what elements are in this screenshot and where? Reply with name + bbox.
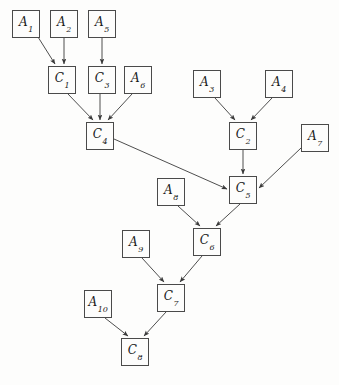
edge-c5-to-c6 xyxy=(216,204,240,226)
node-label-subscript: 3 xyxy=(209,85,214,94)
edge-a8-to-c6 xyxy=(178,206,200,226)
node-c3[interactable]: C3 xyxy=(88,66,116,94)
edge-a1-to-c1 xyxy=(38,37,55,64)
node-label-subscript: 1 xyxy=(65,81,70,90)
node-label: C1 xyxy=(55,72,69,87)
node-c8[interactable]: C8 xyxy=(121,338,149,366)
node-label: A8 xyxy=(164,184,178,199)
node-label-base: C xyxy=(236,181,245,195)
node-label: A1 xyxy=(19,16,33,31)
node-label-base: C xyxy=(55,71,64,85)
node-a3[interactable]: A3 xyxy=(193,70,221,98)
node-label: C6 xyxy=(200,234,214,249)
node-label-base: C xyxy=(164,289,173,303)
edge-c6-to-c7 xyxy=(180,256,202,282)
node-a1[interactable]: A1 xyxy=(12,10,40,38)
node-label: A2 xyxy=(57,16,71,31)
node-label-subscript: 2 xyxy=(66,25,71,34)
edge-a6-to-c4 xyxy=(108,94,132,120)
node-label-base: C xyxy=(128,343,137,357)
node-a5[interactable]: A5 xyxy=(88,10,116,38)
node-label-subscript: 3 xyxy=(105,81,110,90)
node-a6[interactable]: A6 xyxy=(124,66,152,94)
node-label: C2 xyxy=(236,128,250,143)
edge-a10-to-c8 xyxy=(105,318,128,336)
node-a2[interactable]: A2 xyxy=(50,10,78,38)
node-label-base: A xyxy=(129,235,138,249)
node-label-base: A xyxy=(95,15,104,29)
node-a7[interactable]: A7 xyxy=(301,124,329,152)
node-label: A9 xyxy=(129,236,143,251)
node-label: A5 xyxy=(95,16,109,31)
node-label-subscript: 8 xyxy=(138,353,143,362)
node-label: C5 xyxy=(236,182,250,197)
node-c2[interactable]: C2 xyxy=(229,122,257,150)
node-label-base: A xyxy=(131,71,140,85)
node-label-base: A xyxy=(164,183,173,197)
node-label-subscript: 7 xyxy=(317,139,322,148)
node-label-base: A xyxy=(57,15,66,29)
node-label-base: A xyxy=(19,15,28,29)
node-label-subscript: 6 xyxy=(140,81,145,90)
node-label-subscript: 10 xyxy=(98,305,108,314)
node-label: A10 xyxy=(89,296,108,311)
edge-a7-to-c5 xyxy=(259,148,301,188)
node-label: A3 xyxy=(200,76,214,91)
node-label: C7 xyxy=(164,290,178,305)
node-a10[interactable]: A10 xyxy=(84,290,112,318)
node-label-subscript: 9 xyxy=(138,245,143,254)
node-label: C4 xyxy=(93,128,107,143)
node-label-base: C xyxy=(200,233,209,247)
node-label-base: C xyxy=(95,71,104,85)
edge-a4-to-c2 xyxy=(251,98,272,120)
graph-diagram: A1A2A5C1C3A6A3A4C4C2A7A8C5A9C6A10C7C8 xyxy=(0,0,339,385)
node-label: A7 xyxy=(308,130,322,145)
node-a4[interactable]: A4 xyxy=(265,70,293,98)
node-label-subscript: 4 xyxy=(103,137,108,146)
node-label-subscript: 8 xyxy=(173,193,178,202)
node-label-base: C xyxy=(236,127,245,141)
node-c4[interactable]: C4 xyxy=(86,122,114,150)
edge-c1-to-c4 xyxy=(68,94,93,120)
node-label-subscript: 2 xyxy=(246,137,251,146)
edge-a3-to-c2 xyxy=(215,98,235,120)
node-label-base: C xyxy=(93,127,102,141)
node-c1[interactable]: C1 xyxy=(48,66,76,94)
node-c7[interactable]: C7 xyxy=(157,284,185,312)
node-label-base: A xyxy=(200,75,209,89)
node-a8[interactable]: A8 xyxy=(157,178,185,206)
node-a9[interactable]: A9 xyxy=(122,230,150,258)
node-label-subscript: 7 xyxy=(174,299,179,308)
node-label: C3 xyxy=(95,72,109,87)
node-label-base: A xyxy=(89,295,98,309)
edge-a9-to-c7 xyxy=(142,258,164,282)
node-label-subscript: 5 xyxy=(104,25,109,34)
edge-c7-to-c8 xyxy=(144,312,166,336)
node-c6[interactable]: C6 xyxy=(193,228,221,256)
node-label-subscript: 4 xyxy=(281,85,286,94)
node-label-subscript: 5 xyxy=(246,191,251,200)
node-label: A6 xyxy=(131,72,145,87)
node-c5[interactable]: C5 xyxy=(229,176,257,204)
node-label: C8 xyxy=(128,344,142,359)
node-label: A4 xyxy=(272,76,286,91)
node-label-subscript: 1 xyxy=(28,25,33,34)
node-label-subscript: 6 xyxy=(210,243,215,252)
node-label-base: A xyxy=(272,75,281,89)
node-label-base: A xyxy=(308,129,317,143)
